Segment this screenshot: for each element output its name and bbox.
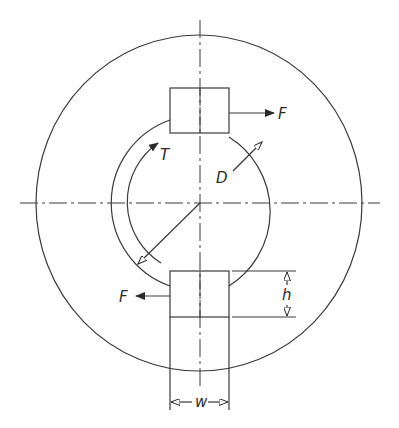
force-label-top: F bbox=[278, 105, 287, 123]
width-label: w bbox=[195, 393, 208, 411]
inner-circle-right-arc bbox=[229, 137, 270, 286]
height-label: h bbox=[282, 286, 292, 304]
diagram-canvas: F F T D h w bbox=[0, 0, 399, 428]
force-label-bottom: F bbox=[119, 288, 128, 306]
diameter-label: D bbox=[216, 169, 228, 187]
diameter-line-lower bbox=[138, 203, 200, 264]
torque-label: T bbox=[160, 146, 171, 164]
